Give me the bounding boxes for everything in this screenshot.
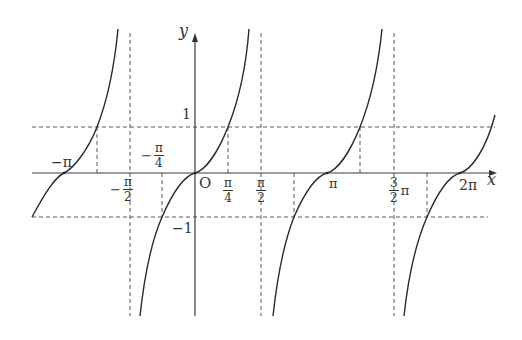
curve-branch-1 — [32, 29, 118, 217]
x-axis-label: x — [487, 172, 496, 188]
x-tick-pi-over-2: π2 — [256, 177, 266, 204]
origin-label: O — [199, 176, 211, 191]
y-axis-arrow-icon — [192, 33, 198, 42]
x-tick-2pi: 2π — [459, 178, 477, 192]
point-pi — [326, 172, 329, 175]
x-tick-neg-pi-over-2: − π2 — [110, 176, 133, 203]
tan-cubed-graph — [0, 0, 522, 340]
x-tick-neg-pi-over-4: − π4 — [141, 142, 164, 169]
x-tick-pi: π — [329, 177, 338, 190]
y-axis-label: y — [179, 23, 188, 39]
x-tick-pi-over-4: π4 — [223, 177, 233, 204]
y-tick-1: 1 — [182, 107, 191, 121]
x-tick-3pi-over-2: 32 π — [389, 177, 409, 204]
y-tick-neg1: −1 — [172, 221, 193, 235]
curve-branch-4 — [404, 115, 495, 316]
x-tick-neg-pi: −π — [51, 155, 72, 169]
point-2pi — [459, 172, 462, 175]
point-neg-pi — [63, 172, 66, 175]
point-origin — [194, 172, 197, 175]
